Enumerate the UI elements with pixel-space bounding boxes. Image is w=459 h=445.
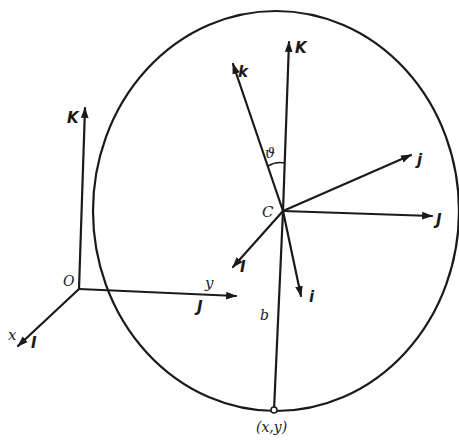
- body-K-label: K: [295, 39, 308, 57]
- contact-point-label: (x,y): [256, 419, 287, 435]
- fixed-axis-I: [18, 289, 79, 346]
- body-axis-i: [283, 211, 301, 296]
- fixed-J-label: J: [194, 298, 203, 316]
- center-label: C: [262, 203, 274, 221]
- body-axis-j: [283, 155, 411, 211]
- body-j-label: j: [415, 151, 423, 169]
- body-axis-J: [283, 211, 432, 216]
- fixed-x-label: x: [8, 326, 17, 344]
- fixed-I-label: I: [31, 334, 37, 352]
- fixed-K-label: K: [67, 109, 80, 127]
- body-axis-k: [233, 64, 283, 211]
- fixed-y-label: y: [204, 274, 214, 292]
- contact-point: [271, 407, 277, 413]
- radius-label: b: [260, 307, 269, 323]
- angle-arc: [268, 162, 285, 166]
- origin-label: O: [63, 273, 75, 289]
- fixed-axis-K: [79, 108, 85, 289]
- body-J-label: J: [433, 211, 442, 229]
- body-frame: C K k ϑ j J I i b (x,y): [233, 39, 442, 435]
- body-axis-K: [283, 42, 289, 211]
- rolling-disk-diagram: O K y J x I C K k ϑ j J I i b (x,y): [0, 0, 459, 445]
- body-k-label: k: [238, 63, 249, 81]
- radius-line: [274, 211, 283, 410]
- fixed-frame: O K y J x I: [8, 108, 236, 352]
- angle-label: ϑ: [265, 145, 275, 161]
- body-I-label: I: [240, 258, 246, 276]
- body-i-label: i: [309, 288, 315, 306]
